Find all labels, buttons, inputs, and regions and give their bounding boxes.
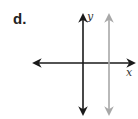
x-axis-label: x bbox=[126, 66, 133, 79]
y-axis-label: y bbox=[86, 10, 94, 23]
coordinate-graph: y x bbox=[0, 0, 138, 119]
